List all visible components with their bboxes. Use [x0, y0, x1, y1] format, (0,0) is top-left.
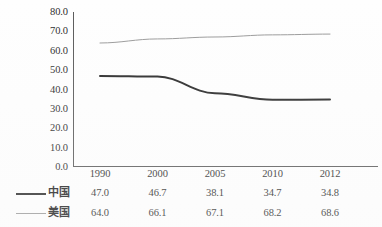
y-tick-label: 80.0: [26, 7, 68, 18]
value-cell: 68.6: [307, 206, 353, 220]
value-cell: 47.0: [77, 186, 123, 200]
legend-series-name: 美国: [48, 206, 70, 220]
value-cell: 67.1: [192, 206, 238, 220]
y-tick-label: 0.0: [26, 162, 68, 173]
plot-area: [73, 12, 378, 167]
value-cell: 38.1: [192, 186, 238, 200]
y-tick-label: 50.0: [26, 65, 68, 76]
x-tick-label: 2010: [250, 168, 296, 180]
value-cell: 46.7: [135, 186, 181, 200]
y-tick-label: 40.0: [26, 85, 68, 96]
legend-line-swatch: [16, 213, 46, 214]
legend-line-swatch: [16, 193, 46, 195]
value-cell: 66.1: [135, 206, 181, 220]
legend-row: 美国64.066.167.168.268.6: [0, 204, 382, 224]
series-line-1: [100, 76, 330, 100]
x-axis-tick-labels: 19902000200520102012: [73, 168, 378, 184]
x-tick-label: 2000: [135, 168, 181, 180]
chart-page: 80.070.060.050.040.030.020.010.00.0 1990…: [0, 0, 382, 227]
value-cell: 34.7: [250, 186, 296, 200]
y-tick-label: 30.0: [26, 104, 68, 115]
series-lines: [100, 34, 330, 100]
y-tick-label: 10.0: [26, 143, 68, 154]
legend-and-value-table: 中国47.046.738.134.734.8美国64.066.167.168.2…: [0, 184, 382, 226]
series-line-2: [100, 34, 330, 43]
y-tick-label: 70.0: [26, 26, 68, 37]
value-cell: 64.0: [77, 206, 123, 220]
x-tick-label: 2005: [192, 168, 238, 180]
value-cell: 68.2: [250, 206, 296, 220]
x-tick-label: 1990: [77, 168, 123, 180]
y-tick-label: 20.0: [26, 123, 68, 134]
y-tick-label: 60.0: [26, 46, 68, 57]
y-axis-tick-labels: 80.070.060.050.040.030.020.010.00.0: [24, 12, 68, 167]
value-cell: 34.8: [307, 186, 353, 200]
x-tick-label: 2012: [307, 168, 353, 180]
legend-series-name: 中国: [48, 186, 70, 200]
chart-svg: [73, 12, 378, 167]
legend-row: 中国47.046.738.134.734.8: [0, 184, 382, 204]
